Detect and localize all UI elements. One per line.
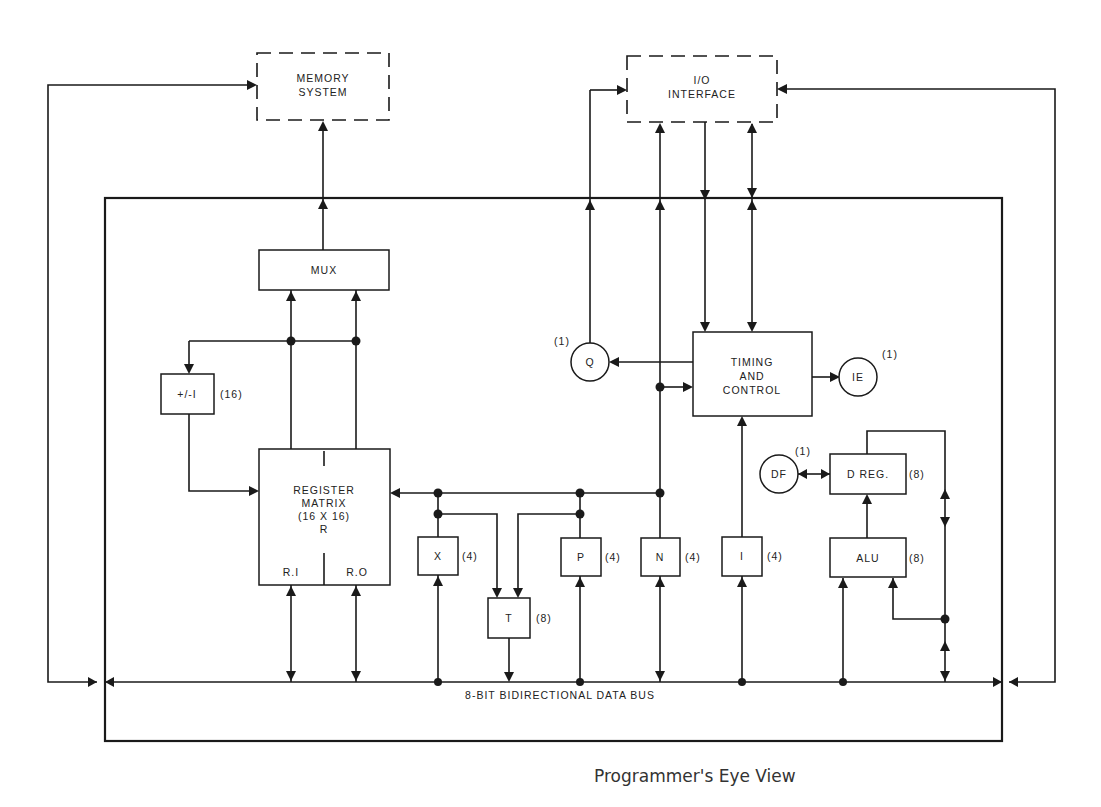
figure-caption: Programmer's Eye View [594, 766, 796, 786]
x-register: X (4) [418, 537, 478, 575]
t-register: T (8) [488, 598, 552, 638]
svg-text:X: X [434, 550, 442, 562]
n-register: N (4) [641, 538, 701, 576]
svg-text:N: N [656, 551, 665, 563]
i-register: I (4) [722, 537, 783, 576]
ie-flag: IE (1) [839, 348, 898, 396]
svg-text:I/O: I/O [693, 74, 710, 86]
incrementer-block: +/-I (16) [161, 374, 243, 414]
svg-text:I: I [740, 550, 744, 562]
register-matrix-block: REGISTER MATRIX (16 X 16) R R.I R.O [259, 449, 390, 585]
svg-text:(8): (8) [909, 552, 925, 564]
svg-text:DF: DF [771, 468, 787, 480]
q-flag: Q (1) [554, 335, 609, 381]
svg-text:R.O: R.O [346, 566, 368, 578]
svg-text:SYSTEM: SYSTEM [298, 86, 347, 98]
svg-text:AND: AND [739, 370, 764, 382]
d-register: D REG. (8) [830, 454, 925, 494]
svg-text:MEMORY: MEMORY [296, 72, 349, 84]
svg-text:(16 X 16): (16 X 16) [298, 510, 350, 522]
svg-text:REGISTER: REGISTER [293, 484, 355, 496]
p-register: P (4) [561, 538, 621, 576]
svg-text:(1): (1) [554, 335, 570, 347]
svg-text:(4): (4) [462, 550, 478, 562]
svg-text:P: P [577, 551, 585, 563]
svg-text:MUX: MUX [311, 264, 337, 276]
svg-text:MATRIX: MATRIX [302, 497, 347, 509]
alu-block: ALU (8) [830, 538, 925, 577]
svg-text:IE: IE [852, 371, 864, 383]
mux-block: MUX [259, 250, 389, 290]
svg-text:(8): (8) [536, 612, 552, 624]
svg-text:(1): (1) [882, 348, 898, 360]
svg-text:D REG.: D REG. [847, 468, 889, 480]
svg-text:R: R [320, 523, 329, 535]
svg-text:+/-I: +/-I [177, 388, 196, 400]
svg-text:(4): (4) [685, 551, 701, 563]
svg-text:Q: Q [585, 356, 594, 368]
svg-text:T: T [505, 612, 512, 624]
data-bus-label: 8-BIT BIDIRECTIONAL DATA BUS [465, 689, 655, 701]
svg-text:TIMING: TIMING [731, 356, 774, 368]
cpu-block-diagram: MEMORY SYSTEM I/O INTERFACE 8-BIT BIDIRE… [0, 0, 1101, 807]
svg-text:(4): (4) [605, 551, 621, 563]
svg-text:(16): (16) [220, 388, 243, 400]
svg-text:(8): (8) [909, 468, 925, 480]
io-interface-block: I/O INTERFACE [627, 56, 777, 122]
svg-text:R.I: R.I [283, 566, 299, 578]
svg-text:INTERFACE: INTERFACE [668, 88, 736, 100]
svg-text:CONTROL: CONTROL [723, 384, 781, 396]
memory-system-block: MEMORY SYSTEM [257, 53, 389, 120]
svg-text:(1): (1) [795, 445, 811, 457]
svg-text:ALU: ALU [856, 552, 879, 564]
timing-control-block: TIMING AND CONTROL [693, 332, 812, 416]
svg-text:(4): (4) [767, 550, 783, 562]
df-flag: DF (1) [760, 445, 811, 493]
